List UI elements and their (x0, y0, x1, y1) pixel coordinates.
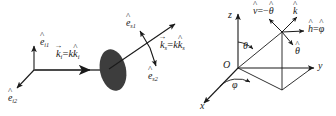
es1-axis-arrow (140, 31, 150, 48)
label-es2: ^es2 (148, 71, 158, 81)
right-diagram-svg (196, 0, 336, 116)
label-origin: O (223, 60, 230, 70)
label-theta-hat: ^θ (295, 46, 300, 56)
label-z-axis: z (228, 10, 232, 20)
label-scattered-wavevector: →ks=k^ks (160, 40, 185, 51)
figure-canvas: ^ei1 ^ei2 →ki=k^ki ^es1 ^es2 →ks=k^ks (0, 0, 336, 116)
left-diagram-scattering-geometry: ^ei1 ^ei2 →ki=k^ki ^es1 ^es2 →ks=k^ks (0, 0, 200, 116)
v-hat-arrow (269, 19, 282, 32)
label-theta-angle: θ (243, 41, 248, 51)
label-phi-angle: φ (232, 80, 238, 90)
k-hat-accent: ^ (293, 0, 297, 9)
ei2-axis-arrow (17, 70, 34, 88)
v-rhs-hat-accent: ^ (269, 0, 273, 9)
es1-hat: ^ (126, 12, 130, 21)
v-hat-accent: ^ (253, 0, 257, 9)
label-y-axis: y (318, 61, 322, 71)
xy-projection-line (238, 68, 282, 90)
scattered-basis-frame (140, 31, 156, 66)
ei1-hat: ^ (40, 31, 44, 40)
h-hat-arrow (282, 31, 304, 32)
ki-vector-arrow-accent: → (54, 42, 62, 50)
label-h-hat-equals-phi-hat: ^h=^φ (308, 24, 324, 34)
label-v-hat-equals-minus-theta-hat: ^v=−^θ (253, 6, 274, 16)
left-diagram-svg (0, 0, 200, 116)
h-rhs-hat-accent: ^ (319, 18, 323, 27)
right-diagram-spherical-frame: z y x O θ φ ^k ^v=−^θ ^h=^φ ^θ (196, 0, 336, 116)
ki-unit-hat: ^ (73, 43, 77, 52)
incident-basis-frame (17, 46, 34, 88)
ks-vector-arrow-accent: → (158, 33, 166, 41)
theta-hat-arrow (282, 32, 293, 45)
label-ei2: ^ei2 (8, 93, 17, 103)
es2-hat: ^ (148, 65, 152, 74)
theta-hat-accent: ^ (295, 40, 299, 49)
k-hat-arrow (282, 17, 297, 32)
label-incident-wavevector: →ki=k^ki (56, 49, 80, 60)
xy-plane-edge (282, 68, 312, 90)
h-hat-accent: ^ (308, 18, 312, 27)
label-x-axis: x (200, 101, 204, 111)
label-ei1: ^ei1 (40, 37, 49, 47)
ks-unit-hat: ^ (178, 34, 182, 43)
label-es1: ^es1 (126, 18, 136, 28)
ei2-hat: ^ (8, 87, 12, 96)
label-k-hat: ^k (293, 6, 297, 16)
scatterer-ellipse (96, 47, 130, 93)
